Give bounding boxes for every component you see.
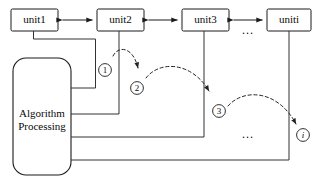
unit-box-unit1[interactable]: unit1 [11, 9, 58, 31]
sequence-arrow-2-to-3 [146, 66, 209, 91]
unit-label-uniti: uniti [279, 13, 299, 25]
sequence-arrow-1-to-2 [113, 49, 138, 68]
step-marker-i[interactable]: i [297, 129, 310, 142]
algorithm-processing-label-line1: Algorithm [19, 107, 65, 119]
algorithm-processing-box[interactable]: Algorithm Processing [13, 58, 71, 175]
unit-label-unit1: unit1 [23, 13, 46, 25]
unit-box-uniti[interactable]: uniti [267, 9, 311, 31]
unit-box-unit3[interactable]: unit3 [182, 9, 229, 31]
unit-box-unit2[interactable]: unit2 [97, 9, 144, 31]
diagram-canvas: unit1 unit2 unit3 uniti ... Algorithm Pr… [0, 0, 320, 189]
step-label-2: 2 [135, 83, 140, 93]
diagram-svg: unit1 unit2 unit3 uniti ... Algorithm Pr… [0, 0, 320, 189]
step-marker-3[interactable]: 3 [213, 105, 226, 118]
ellipsis-middle: ... [242, 127, 254, 141]
step-label-3: 3 [217, 106, 222, 116]
step-marker-1[interactable]: 1 [99, 64, 112, 77]
algorithm-processing-label-line2: Processing [18, 120, 66, 132]
sequence-arrow-3-to-i [228, 95, 296, 124]
unit-label-unit3: unit3 [194, 13, 217, 25]
wire-uniti-processor [71, 31, 289, 160]
unit-label-unit2: unit2 [109, 13, 132, 25]
step-label-1: 1 [103, 65, 108, 75]
ellipsis-top: ... [242, 23, 254, 37]
step-marker-2[interactable]: 2 [131, 82, 144, 95]
